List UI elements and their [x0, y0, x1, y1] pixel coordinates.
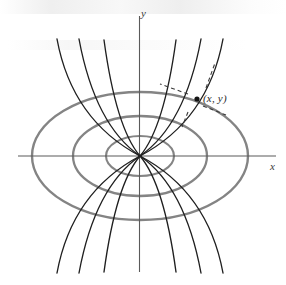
orthogonal-families-plot: [0, 0, 286, 285]
marked-point-label: (x, y): [203, 92, 227, 104]
axis-lines: [18, 16, 276, 272]
y-axis-label: y: [141, 8, 146, 19]
figure-container: y x (x, y): [0, 0, 286, 285]
marked-point-dot: [194, 96, 199, 101]
x-axis-label: x: [270, 161, 275, 172]
tangent-dash-parabola-upper: [206, 63, 215, 88]
